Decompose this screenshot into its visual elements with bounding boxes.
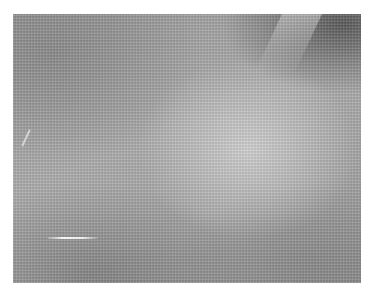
white-streak: [48, 237, 98, 239]
weave-pattern: [13, 14, 361, 283]
fabric-texture-photo: [13, 14, 361, 283]
